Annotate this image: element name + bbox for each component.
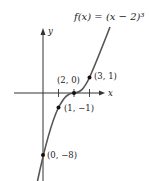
cubic-function-graph: x y (0, −8) (1, −1) (2, 0) (3, 1) f(x) =… — [0, 0, 149, 181]
y-axis-arrow-icon — [41, 28, 46, 35]
point-label-0-neg8: (0, −8) — [47, 150, 77, 160]
point-2-0 — [72, 91, 76, 95]
function-title: f(x) = (x − 2)³ — [73, 11, 144, 22]
point-1-neg1 — [57, 106, 61, 110]
point-3-1 — [88, 76, 92, 80]
point-label-2-0: (2, 0) — [57, 75, 80, 85]
point-label-1-neg1: (1, −1) — [64, 103, 94, 113]
y-axis-label: y — [47, 26, 53, 36]
x-axis-label: x — [108, 88, 113, 98]
point-0-neg8 — [41, 153, 45, 157]
x-axis-arrow-icon — [99, 91, 105, 96]
point-label-3-1: (3, 1) — [94, 71, 117, 81]
